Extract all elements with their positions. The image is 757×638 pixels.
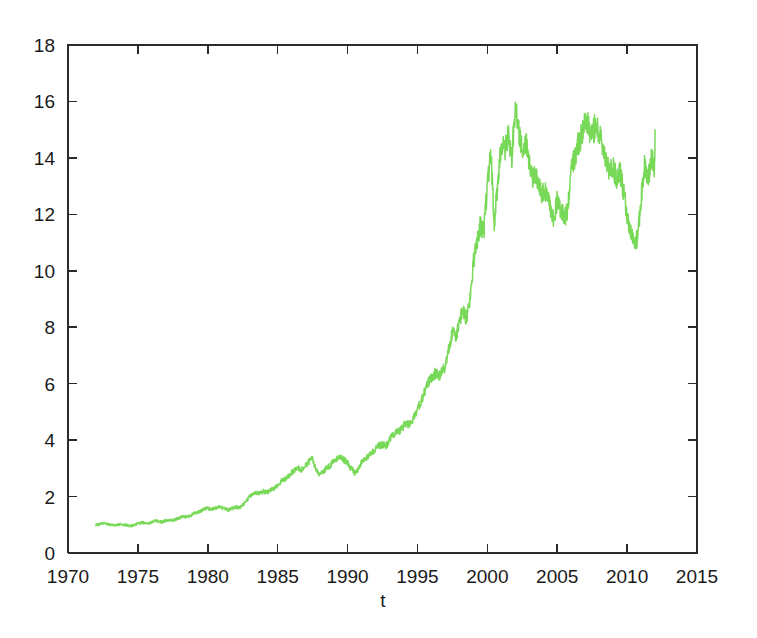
- y-tick-label: 16: [34, 91, 55, 112]
- y-tick-label: 14: [34, 148, 56, 169]
- x-tick-label: 1975: [117, 566, 159, 587]
- x-tick-label: 2005: [536, 566, 578, 587]
- x-tick-label: 2015: [676, 566, 718, 587]
- x-axis-title: t: [380, 590, 386, 611]
- x-tick-label: 1995: [396, 566, 438, 587]
- x-tick-label: 2010: [606, 566, 648, 587]
- chart-container: 024681012141618 197019751980198519901995…: [0, 0, 757, 638]
- x-tick-label: 1990: [326, 566, 368, 587]
- line-chart: 024681012141618 197019751980198519901995…: [0, 0, 757, 638]
- y-tick-label: 2: [44, 487, 55, 508]
- y-tick-label: 18: [34, 35, 55, 56]
- chart-background: [0, 0, 757, 638]
- y-tick-label: 10: [34, 261, 55, 282]
- y-tick-label: 0: [44, 543, 55, 564]
- y-tick-label: 6: [44, 374, 55, 395]
- x-tick-label: 2000: [466, 566, 508, 587]
- x-tick-label: 1985: [257, 566, 299, 587]
- x-tick-label: 1970: [47, 566, 89, 587]
- y-tick-label: 4: [44, 430, 55, 451]
- y-tick-label: 12: [34, 204, 55, 225]
- y-tick-label: 8: [44, 317, 55, 338]
- x-tick-label: 1980: [187, 566, 229, 587]
